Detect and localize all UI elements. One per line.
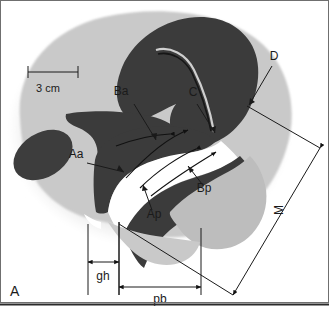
label-c: C: [189, 85, 198, 99]
anatomical-diagram: 3 cm Ba C D Aa: [0, 0, 329, 309]
panel-label: A: [10, 283, 20, 299]
label-bp: Bp: [197, 181, 212, 195]
label-ap: Ap: [147, 207, 162, 221]
label-d: D: [270, 49, 279, 63]
dimension-m-label: M: [272, 205, 286, 215]
scale-bar-label: 3 cm: [36, 82, 60, 94]
dimension-gh-label: gh: [96, 269, 109, 283]
figure-panel-a: 3 cm Ba C D Aa: [0, 0, 329, 309]
label-aa: Aa: [69, 147, 84, 161]
label-ba: Ba: [114, 84, 129, 98]
